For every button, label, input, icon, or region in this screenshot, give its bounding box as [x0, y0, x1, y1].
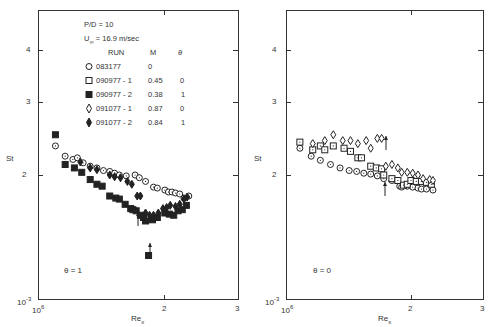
open-square-icon — [86, 78, 92, 84]
square-dot — [320, 145, 321, 146]
arrow-head-icon — [383, 182, 387, 186]
open-diamond-point — [368, 144, 373, 152]
arrow-head-icon — [148, 243, 152, 247]
circle-dot — [72, 159, 73, 160]
square-dot — [324, 149, 325, 150]
arrow-head-icon — [384, 136, 388, 140]
square-dot — [361, 157, 362, 158]
legend-markers — [86, 64, 92, 128]
circle-dot — [421, 188, 422, 189]
circle-dot — [134, 174, 135, 175]
square-dot — [416, 181, 417, 182]
filled-square-point — [62, 161, 68, 167]
open-diamond-point — [340, 137, 345, 145]
open-diamond-point — [355, 140, 360, 148]
square-dot — [312, 149, 313, 150]
square-dot — [370, 166, 371, 167]
circle-dot — [55, 145, 56, 146]
open-circle-icon — [86, 64, 92, 70]
square-dot — [381, 168, 382, 169]
square-dot — [333, 145, 334, 146]
circle-dot — [377, 175, 378, 176]
square-dot — [376, 167, 377, 168]
circle-dot — [432, 189, 433, 190]
square-dot — [350, 151, 351, 152]
circle-dot — [349, 170, 350, 171]
filled-diamond-point — [138, 192, 143, 200]
circle-dot — [164, 189, 165, 190]
circle-dot — [356, 171, 357, 172]
square-dot — [343, 148, 344, 149]
circle-dot — [330, 164, 331, 165]
filled-square-point — [116, 196, 122, 202]
circle-dot — [157, 187, 158, 188]
open-diamond-point — [348, 137, 353, 145]
circle-dot — [426, 188, 427, 189]
filled-square-point — [107, 193, 113, 199]
circle-dot — [175, 192, 176, 193]
filled-square-point — [99, 183, 105, 189]
open-diamond-icon — [87, 104, 92, 113]
filled-square-point — [52, 132, 58, 138]
open-diamond-point — [405, 168, 410, 176]
square-dot — [410, 180, 411, 181]
circle-dot — [370, 174, 371, 175]
open-diamond-point — [331, 131, 336, 139]
circle-dot — [299, 148, 300, 149]
circle-dot — [363, 173, 364, 174]
circle-dot — [412, 187, 413, 188]
filled-square-point — [87, 177, 93, 183]
open-diamond-point — [410, 169, 415, 177]
square-dot — [383, 174, 384, 175]
circle-dot — [320, 160, 321, 161]
filled-square-point — [79, 169, 85, 175]
open-diamond-point — [364, 137, 369, 145]
filled-diamond-icon — [87, 118, 92, 127]
circle-dot — [65, 156, 66, 157]
circle-dot — [103, 170, 104, 171]
square-dot — [391, 178, 392, 179]
circle-dot — [179, 193, 180, 194]
open-diamond-point — [379, 134, 384, 142]
square-dot — [397, 180, 398, 181]
square-dot — [431, 184, 432, 185]
square-dot — [299, 142, 300, 143]
open-diamond-point — [389, 160, 394, 168]
filled-square-point — [146, 252, 152, 258]
circle-dot — [139, 177, 140, 178]
open-diamond-point — [415, 171, 420, 179]
circle-dot — [339, 167, 340, 168]
circle-dot — [77, 157, 78, 158]
filled-square-point — [71, 165, 77, 171]
filled-square-point — [143, 218, 149, 224]
square-dot — [426, 182, 427, 183]
circle-dot — [145, 181, 146, 182]
circle-dot — [126, 175, 127, 176]
filled-square-icon — [86, 92, 92, 98]
scatter-canvas — [0, 0, 493, 327]
circle-dot — [311, 156, 312, 157]
